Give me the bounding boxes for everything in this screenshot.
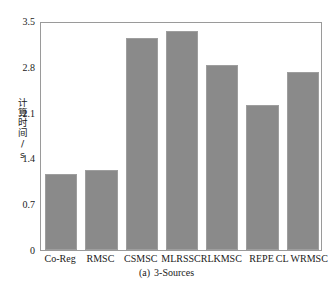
y-axis-tick-label: 2.1	[0, 108, 40, 120]
y-axis-tick-label: 3.5	[0, 16, 40, 28]
bar	[166, 31, 198, 250]
bar	[246, 105, 278, 250]
x-axis-tick-label: MLRSSC	[161, 253, 200, 264]
bar-chart-figure: 计算时间/s 00.71.42.12.83.5 Co-RegRMSCCSMSCM…	[0, 0, 333, 285]
x-axis-tick-label: REPE	[249, 253, 273, 264]
x-axis-tick-label: Co-Reg	[45, 253, 76, 264]
plot-area	[40, 22, 322, 251]
x-axis-tick-label: RMSC	[87, 253, 115, 264]
bar	[85, 170, 117, 250]
x-axis-tick-label: CL WRMSC	[276, 253, 328, 264]
x-axis-tick-label: CSMSC	[124, 253, 157, 264]
figure-caption: (a)3-Sources	[0, 267, 333, 278]
y-axis-tick-label: 0	[0, 245, 40, 257]
bar	[45, 174, 77, 250]
x-axis-labels: Co-RegRMSCCSMSCMLRSSCRLKMSCREPECL WRMSC	[40, 253, 322, 267]
bars-container	[41, 23, 321, 250]
bar	[206, 65, 238, 250]
caption-tag: (a)	[139, 267, 150, 278]
y-axis-tick-label: 0.7	[0, 199, 40, 211]
x-axis-tick-label: RLKMSC	[201, 253, 242, 264]
bar	[126, 38, 158, 250]
bar	[287, 72, 319, 250]
caption-text: 3-Sources	[154, 267, 194, 278]
y-axis-label: 计算时间/s	[13, 96, 27, 162]
y-axis-tick-label: 1.4	[0, 153, 40, 165]
y-axis-tick-label: 2.8	[0, 62, 40, 74]
